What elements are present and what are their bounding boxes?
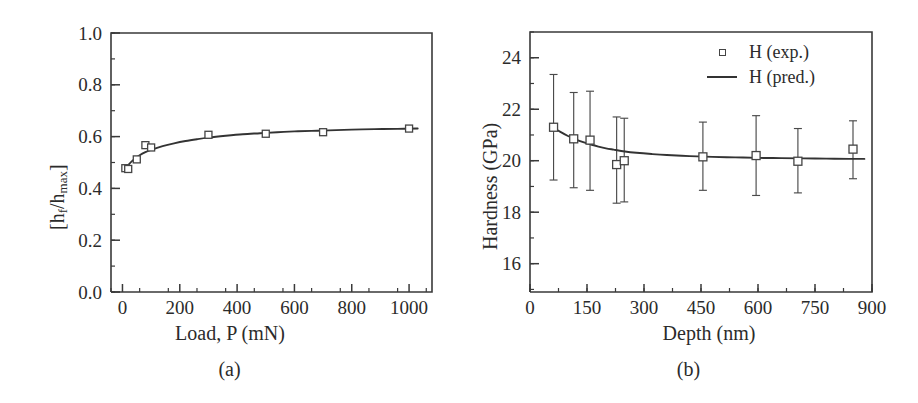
panel-a-caption: (a)	[0, 358, 459, 381]
x-tick-label: 1000	[390, 297, 428, 318]
x-tick-label: 600	[280, 297, 309, 318]
plot-frame	[530, 32, 872, 292]
legend-entry-h-exp: H (exp.)	[705, 42, 815, 62]
legend-marker-line-icon	[705, 76, 739, 78]
y-tick-label: 16	[502, 253, 521, 274]
y-tick-label: 0.6	[78, 126, 102, 147]
data-point-marker	[586, 136, 594, 144]
error-bars	[550, 74, 857, 203]
data-point-marker	[550, 123, 558, 131]
x-tick-label: 0	[525, 297, 535, 318]
data-markers	[122, 125, 413, 172]
y-axis-title-a: [hf/hmax]	[46, 164, 71, 230]
y-axis-title-b: Hardness (GPa)	[479, 123, 502, 250]
legend-entry-h-pred: H (pred.)	[705, 67, 815, 87]
data-point-marker	[849, 145, 857, 153]
data-point-marker	[125, 165, 132, 172]
y-tick-label: 22	[502, 99, 521, 120]
data-point-marker	[699, 153, 707, 161]
data-point-marker	[613, 161, 621, 169]
x-tick-label: 150	[573, 297, 602, 318]
data-point-marker	[148, 144, 155, 151]
x-tick-label: 450	[687, 297, 716, 318]
x-tick-label: 400	[223, 297, 252, 318]
legend-b: H (exp.) H (pred.)	[705, 42, 815, 87]
y-tick-label: 24	[502, 47, 522, 68]
data-point-marker	[794, 157, 802, 165]
y-tick-label: 0.0	[78, 282, 102, 303]
chart-panel-b: 01503004506007509001618202224 Hardness (…	[459, 0, 918, 403]
data-point-marker	[620, 157, 628, 165]
plot-frame	[111, 33, 432, 292]
y-tick-label: 0.8	[78, 74, 102, 95]
x-tick-label: 300	[630, 297, 659, 318]
data-point-marker	[570, 135, 578, 143]
y-tick-label: 18	[502, 202, 521, 223]
figure-container: 020040060080010000.00.20.40.60.81.0 [hf/…	[0, 0, 918, 403]
y-tick-label: 0.2	[78, 230, 102, 251]
data-point-marker	[752, 152, 760, 160]
x-tick-label: 0	[118, 297, 128, 318]
legend-marker-square-icon	[705, 49, 739, 56]
chart-panel-a: 020040060080010000.00.20.40.60.81.0 [hf/…	[0, 0, 459, 403]
x-axis-title-a: Load, P (mN)	[20, 322, 440, 345]
data-point-marker	[205, 131, 212, 138]
x-tick-label: 600	[744, 297, 773, 318]
data-point-marker	[320, 129, 327, 136]
x-tick-label: 750	[801, 297, 830, 318]
legend-label-h-pred: H (pred.)	[749, 67, 815, 88]
legend-label-h-exp: H (exp.)	[749, 42, 809, 63]
panel-b-caption: (b)	[459, 358, 918, 381]
plot-b-canvas: 01503004506007509001618202224	[459, 0, 918, 360]
data-point-marker	[406, 125, 413, 132]
prediction-curve	[125, 129, 418, 170]
y-tick-label: 20	[502, 150, 521, 171]
y-tick-label: 1.0	[78, 23, 102, 44]
data-point-marker	[262, 130, 269, 137]
data-point-marker	[133, 156, 140, 163]
x-axis-title-b: Depth (nm)	[499, 322, 918, 345]
x-tick-label: 200	[166, 297, 195, 318]
x-tick-label: 800	[338, 297, 367, 318]
x-tick-label: 900	[858, 297, 887, 318]
prediction-curve	[553, 127, 865, 159]
y-tick-label: 0.4	[78, 178, 102, 199]
